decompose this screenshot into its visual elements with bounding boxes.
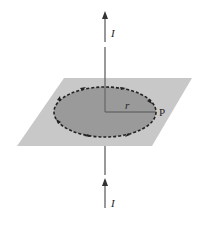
wire-field-diagram: I I r P xyxy=(0,0,207,226)
current-label-bottom: I xyxy=(110,197,116,209)
current-label-top: I xyxy=(110,27,116,39)
current-arrow-bottom-icon xyxy=(102,178,108,186)
current-arrow-top-icon xyxy=(102,11,108,19)
radius-label: r xyxy=(125,99,130,111)
point-label: P xyxy=(159,106,165,118)
